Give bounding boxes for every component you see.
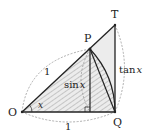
label-sin-x: sinx [64,79,86,90]
sin-var: x [80,79,86,90]
label-O: O [8,106,17,119]
sin-func: sin [64,79,79,90]
tan-var: x [136,64,142,75]
point-T [114,24,116,26]
point-O [21,111,23,113]
label-radius-OP: 1 [44,66,50,77]
label-T: T [111,8,119,21]
label-angle-x: x [38,100,43,110]
label-tan-x: tanx [119,64,142,75]
label-P: P [84,32,92,45]
label-radius-OQ: 1 [65,121,71,132]
trig-diagram: T P O Q 1 1 x sinx tanx [0,0,154,139]
point-Q [114,111,116,113]
tan-func: tan [119,64,136,75]
label-Q: Q [113,116,122,129]
point-P [89,48,92,51]
